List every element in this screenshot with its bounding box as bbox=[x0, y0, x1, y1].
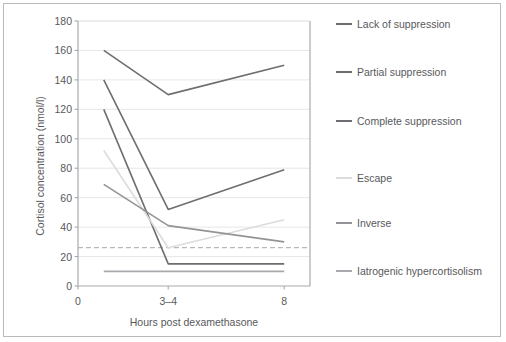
legend-item-label: Escape bbox=[357, 171, 392, 185]
x-axis-tick-label: 8 bbox=[254, 295, 314, 307]
legend-item-label: Inverse bbox=[357, 216, 391, 230]
y-axis-tick-label: 140 bbox=[32, 75, 72, 85]
legend-swatch-line-icon bbox=[336, 23, 352, 25]
y-axis-tick-label: 20 bbox=[32, 252, 72, 262]
y-axis-tick-label: 160 bbox=[32, 45, 72, 55]
legend-item-label: Partial suppression bbox=[357, 65, 446, 79]
y-axis-tick-label: 0 bbox=[32, 281, 72, 291]
line-chart bbox=[0, 0, 506, 342]
legend-swatch-line-icon bbox=[336, 177, 352, 179]
legend-item-label: Lack of suppression bbox=[357, 17, 450, 31]
x-axis-tick-label: 3–4 bbox=[138, 295, 198, 307]
y-axis-tick-label: 60 bbox=[32, 193, 72, 203]
y-axis-tick-label: 80 bbox=[32, 163, 72, 173]
legend-swatch-line-icon bbox=[336, 270, 352, 272]
x-axis-tick-label: 0 bbox=[48, 295, 108, 307]
legend-item-label: Complete suppression bbox=[357, 114, 461, 128]
x-axis-title: Hours post dexamethasone bbox=[78, 316, 310, 328]
legend-swatch-line-icon bbox=[336, 71, 352, 73]
y-axis-tick-label: 40 bbox=[32, 222, 72, 232]
legend-swatch-line-icon bbox=[336, 120, 352, 122]
legend-item-label: Iatrogenic hypercortisolism bbox=[357, 264, 482, 278]
y-axis-tick-label: 120 bbox=[32, 104, 72, 114]
y-axis-tick-label: 180 bbox=[32, 16, 72, 26]
y-axis-tick-label: 100 bbox=[32, 134, 72, 144]
plot-background bbox=[78, 21, 310, 286]
legend-swatch-line-icon bbox=[336, 222, 352, 224]
